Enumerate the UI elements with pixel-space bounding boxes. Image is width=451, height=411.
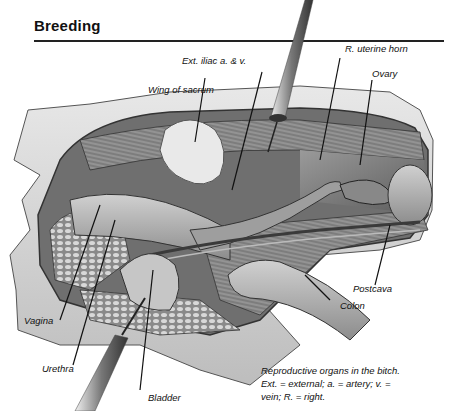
- figure-caption: Reproductive organs in the bitch. Ext. =…: [261, 364, 451, 403]
- label-wing-of-sacrum: Wing of sacrum: [148, 84, 214, 95]
- label-vagina: Vagina: [24, 315, 53, 326]
- label-bladder: Bladder: [148, 392, 181, 403]
- caption-line-1: Reproductive organs in the bitch.: [261, 364, 451, 377]
- label-r-uterine-horn: R. uterine horn: [345, 43, 408, 54]
- label-ovary: Ovary: [372, 68, 397, 79]
- label-colon: Colon: [340, 300, 365, 311]
- label-ext-iliac: Ext. iliac a. & v.: [182, 55, 246, 66]
- caption-line-2: Ext. = external; a. = artery; v. =: [261, 377, 451, 390]
- label-urethra: Urethra: [42, 363, 74, 374]
- label-postcava: Postcava: [353, 283, 392, 294]
- bottom-instrument: [75, 335, 128, 411]
- caption-line-3: vein; R. = right.: [261, 390, 451, 403]
